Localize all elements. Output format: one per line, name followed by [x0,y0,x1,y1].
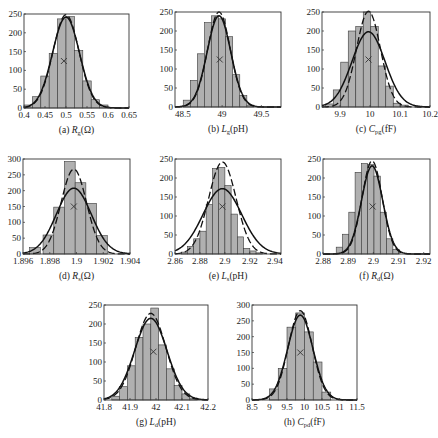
x-tick-label: 48.5 [175,109,191,119]
x-tick-label: 9.5 [281,402,293,412]
x-tick-label: 42.2 [200,402,216,412]
x-tick-label: 49 [218,109,228,119]
histogram-bar [127,366,135,400]
y-tick-label: 150 [308,192,322,202]
histogram-bar [166,369,174,400]
histogram-bar [244,248,250,254]
panel-caption: (c) Cpg(fF) [356,124,397,135]
x-tick-label: 11 [335,402,344,412]
y-tick-label: 200 [8,186,22,196]
y-tick-label: 100 [307,64,321,74]
panel-caption: (b) Lg(pH) [208,124,248,135]
histogram-panel-b: 05010015020025048.54949.5(b) Lg(pH) [160,7,282,135]
x-tick-label: 0.45 [37,110,53,120]
x-tick-label: 10 [300,402,310,412]
y-tick-label: 50 [311,83,321,93]
y-tick-label: 200 [9,28,23,38]
x-tick-label: 0.55 [79,110,95,120]
x-tick-label: 0.4 [18,110,30,120]
histogram-bar [212,169,218,255]
x-tick-label: 42 [152,402,161,412]
histogram-bar [371,26,379,107]
x-tick-label: 9 [267,402,272,412]
y-tick-label: 150 [307,45,321,55]
x-tick-label: 0.65 [121,110,137,120]
histogram-bar [378,66,386,107]
y-tick-label: 150 [89,338,103,348]
histogram-bar [143,324,151,400]
histogram-bar [386,86,394,107]
y-tick-label: 150 [237,348,251,358]
histogram-bar [86,203,97,254]
x-tick-label: 9.9 [334,109,346,119]
y-tick-label: 200 [160,26,174,36]
y-tick-label: 100 [160,64,174,74]
x-tick-label: 1.896 [13,256,34,266]
histogram-panel-f: 0501001502002502.882.892.92.912.92(f) Rd… [308,154,432,282]
y-tick-label: 250 [9,9,23,19]
y-tick-label: 50 [164,230,174,240]
x-tick-label: 2.92 [242,256,258,266]
histogram-bar [287,327,296,400]
x-tick-label: 41.9 [122,402,138,412]
histogram-bar [200,231,206,254]
x-tick-label: 0.5 [60,110,72,120]
histogram-bar [83,81,91,108]
histogram-bar [278,368,287,400]
x-tick-label: 10 [366,109,376,119]
y-tick-label: 150 [160,45,174,55]
y-tick-label: 0 [316,102,321,112]
histogram-bar [296,313,305,400]
histogram-bar [112,396,120,400]
histogram-panel-a: 0501001502002500.40.450.50.550.60.65(a) … [9,9,138,136]
histogram-panel-e: 0501001502002502.862.882.92.922.94(e) Ls… [160,154,284,282]
x-tick-label: 2.86 [167,256,183,266]
y-tick-label: 50 [241,379,251,389]
x-tick-label: 49.5 [253,109,269,119]
x-tick-label: 1.902 [93,256,113,266]
histogram-bar [219,167,225,254]
histogram-bar [363,12,371,107]
x-tick-label: 8.5 [246,402,258,412]
histogram-bar [237,237,243,254]
y-tick-label: 300 [8,154,22,164]
x-tick-label: 11.5 [349,402,365,412]
panel-caption: (a) Rg(Ω) [59,125,94,136]
x-tick-label: 42.1 [174,402,190,412]
histogram-bar [206,205,212,254]
x-tick-label: 2.94 [267,256,283,266]
panel-caption: (d) Rs(Ω) [59,271,94,282]
histogram-bar [231,214,237,254]
histogram-panel-d: 0501001502002503001.8961.8981.91.9021.90… [8,154,141,282]
y-tick-label: 50 [93,376,103,386]
y-tick-label: 200 [237,332,251,342]
y-tick-label: 300 [237,300,251,310]
x-tick-label: 2.89 [340,256,356,266]
histogram-bar [97,236,108,254]
y-tick-label: 50 [312,230,322,240]
panel-caption: (h) Cpd(fF) [284,417,325,428]
y-tick-label: 150 [8,202,22,212]
y-tick-label: 100 [308,211,322,221]
panel-caption: (g) Ld(pH) [136,417,176,428]
y-tick-label: 200 [307,26,321,36]
y-tick-label: 250 [160,154,174,164]
panel-caption: (e) Ls(pH) [209,271,248,282]
histogram-bar [159,345,167,400]
x-tick-label: 41.8 [96,402,112,412]
y-tick-label: 50 [13,84,23,94]
histogram-bar [54,207,65,254]
x-tick-label: 2.9 [368,256,380,266]
x-tick-label: 10.2 [422,109,438,119]
y-tick-label: 0 [169,102,174,112]
x-tick-label: 2.91 [391,256,407,266]
y-tick-label: 200 [89,319,103,329]
y-tick-label: 250 [160,7,174,17]
x-tick-label: 10.5 [314,402,330,412]
x-tick-label: 1.904 [120,256,141,266]
histogram-bar [219,19,226,107]
y-tick-label: 200 [160,173,174,183]
x-tick-label: 2.88 [315,256,331,266]
y-tick-label: 250 [308,154,322,164]
y-tick-label: 250 [307,7,321,17]
